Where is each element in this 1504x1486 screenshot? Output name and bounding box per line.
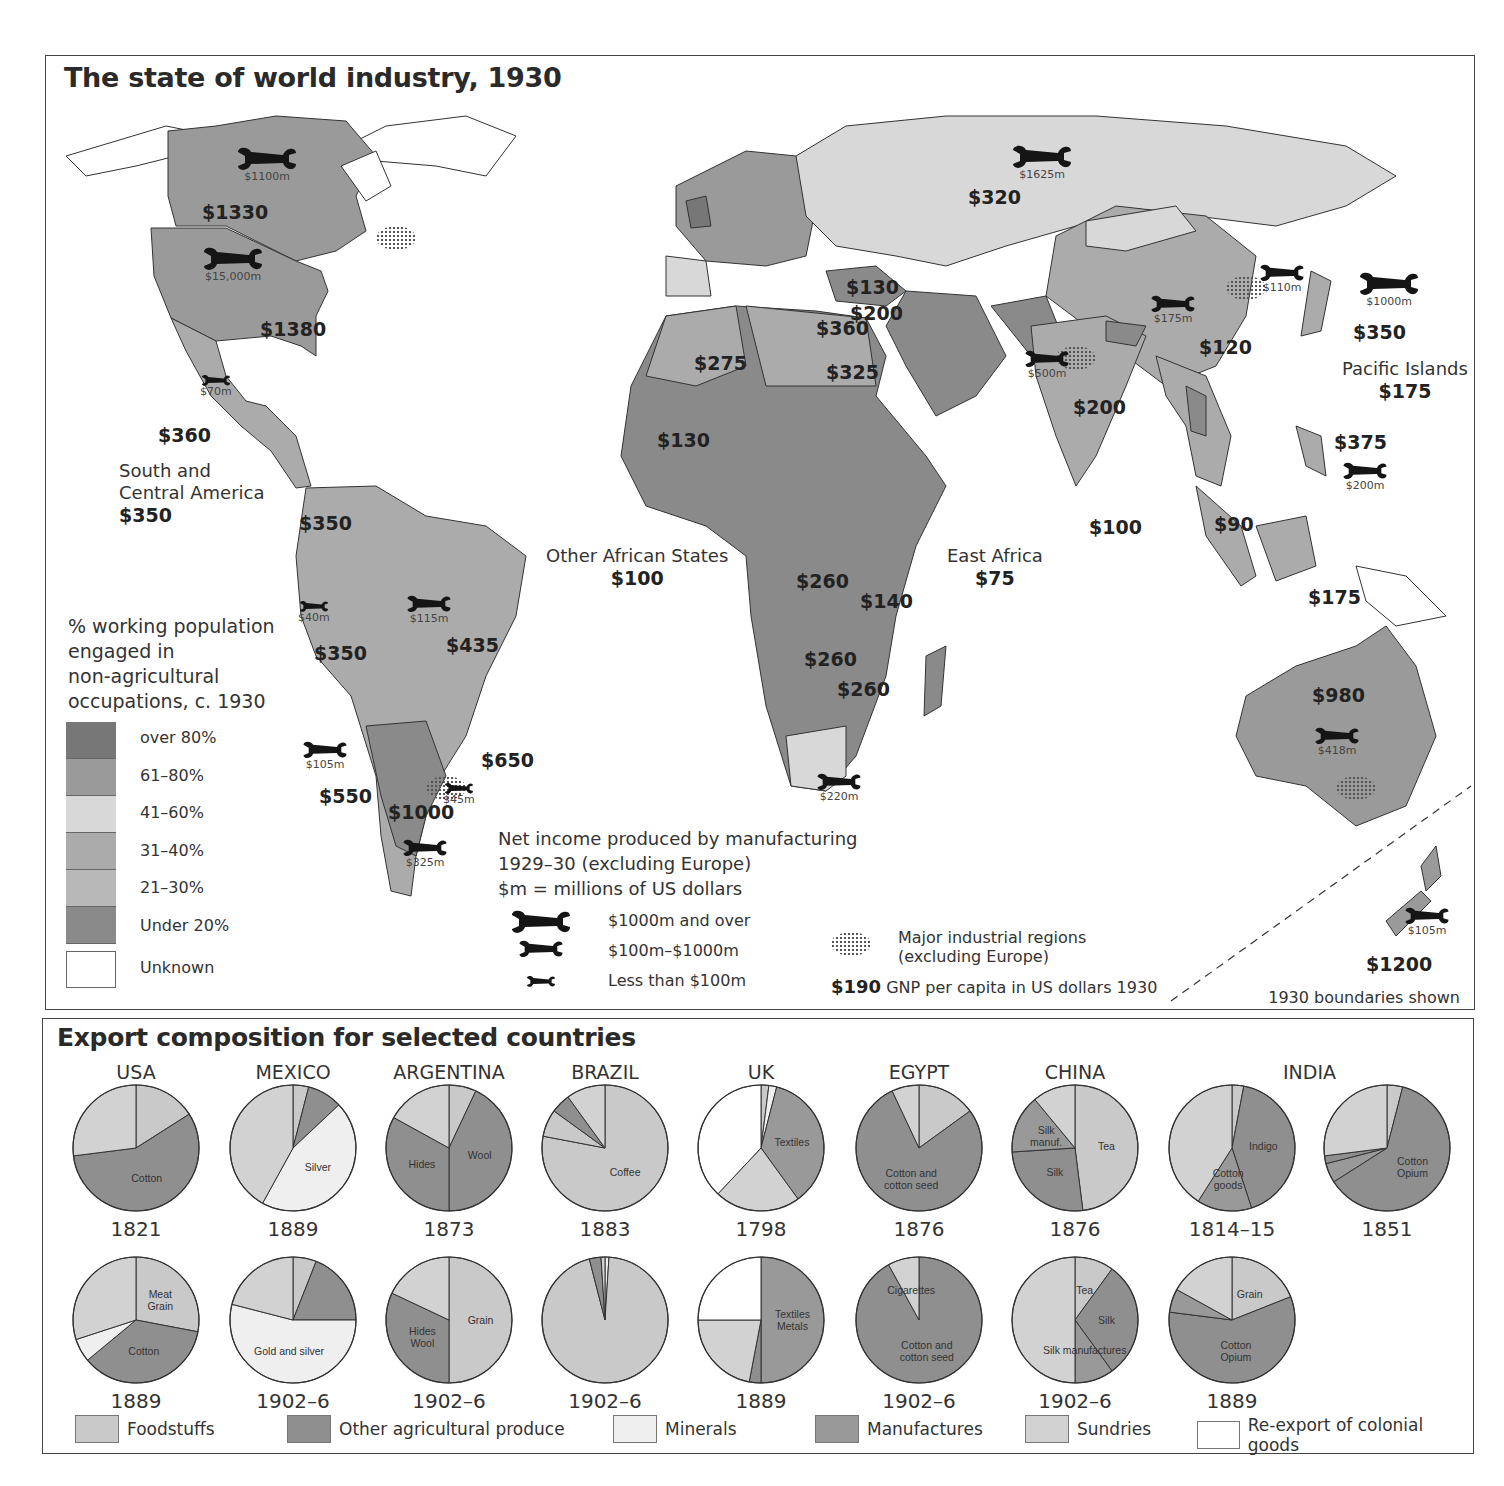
wrench-marker-philippines: $200m [1342,461,1388,492]
pie-uk-1798: Textiles [696,1083,826,1213]
pie-year-label: 1902–6 [233,1389,353,1413]
pie-year-label: 1889 [76,1389,196,1413]
svg-text:Cigarettes: Cigarettes [887,1284,935,1296]
svg-text:Tea: Tea [1098,1140,1115,1152]
unknown-swatch [66,951,116,988]
svg-text:Textiles: Textiles [774,1136,809,1148]
category-swatch [815,1415,859,1443]
svg-text:Wool: Wool [468,1149,492,1161]
wrench-icon [1150,294,1196,314]
wrench-marker-manchuria: $110m [1259,263,1305,294]
svg-text:Grain: Grain [1237,1288,1263,1300]
gnp-label-malaya: $90 [1214,513,1254,535]
wrench-marker-south_africa: $220m [816,772,862,803]
pie-usa-1889: MeatGrainCotton [71,1255,201,1385]
gnp-label-new_zealand: $1200 [1366,953,1432,975]
region-label-east_africa: East Africa$75 [947,545,1043,590]
category-swatch [75,1415,119,1443]
pie-brazil-1902–6 [540,1255,670,1385]
gnp-label-usa: $1380 [260,318,326,340]
legend-swatch-21_30 [66,870,116,907]
wrench-icon [406,594,452,614]
pie-year-label: 1821 [76,1217,196,1241]
country-header-argentina: ARGENTINA [369,1061,529,1083]
industrial-region-legend-swatch [831,932,871,956]
pie-india-1814–15: IndigoCottongoods [1167,1083,1297,1213]
new-guinea [1356,566,1446,626]
gnp-label-ceylon: $100 [1089,516,1142,538]
svg-text:Indigo: Indigo [1249,1140,1278,1152]
svg-text:Silk manufactures: Silk manufactures [1043,1344,1126,1356]
country-header-india: INDIA [1230,1061,1390,1083]
svg-text:Opium: Opium [1397,1167,1428,1179]
wrench-icon [1011,144,1073,170]
gnp-label-tanganyika: $140 [860,590,913,612]
svg-text:manuf.: manuf. [1030,1136,1062,1148]
svg-text:Textiles: Textiles [775,1308,810,1320]
pie-egypt-1876: Cotton andcotton seed [854,1083,984,1213]
wrench-icon [1314,726,1360,746]
gnp-label-colombia: $350 [299,512,352,534]
legend-label-21_30: 21–30% [140,878,204,897]
industrial-region-legend-label: Major industrial regions (excluding Euro… [898,928,1086,966]
industrial-region-stipple [376,226,416,250]
svg-text:Wool: Wool [411,1337,435,1349]
gnp-label-chile: $550 [319,785,372,807]
svg-text:Cotton and: Cotton and [886,1167,938,1179]
pie-year-label: 1889 [1172,1389,1292,1413]
wrench-icon [1342,461,1388,481]
gnp-label-algeria: $275 [694,352,747,374]
pie-year-label: 1814–15 [1172,1217,1292,1241]
region-label-south_central_america: South andCentral America$350 [119,460,265,527]
pie-egypt-1902–6: Cotton andcotton seedCigarettes [854,1255,984,1385]
choropleth-legend-title: % working population engaged in non-agri… [68,614,275,714]
legend-swatch-31_40 [66,833,116,870]
wrench-marker-china: $175m [1150,294,1196,325]
svg-text:goods: goods [1214,1179,1243,1191]
country-header-china: CHINA [995,1061,1155,1083]
pie-year-label: 1889 [233,1217,353,1241]
legend-label-unknown: Unknown [140,958,214,977]
wrench-icon-medium [506,939,576,959]
uk [686,196,711,228]
svg-text:Hides: Hides [408,1158,435,1170]
wrench-icon [1259,263,1305,283]
boundaries-note: 1930 boundaries shown [1268,988,1460,1007]
svg-text:Hides: Hides [409,1325,436,1337]
legend-label-61_80: 61–80% [140,766,204,785]
wrench-marker-brazil: $115m [406,594,452,625]
gnp-label-brazil: $435 [446,634,499,656]
wrench-icon-small [506,975,576,988]
world-industry-map-panel: The state of world industry, 1930 [45,55,1475,1010]
gnp-label-india: $200 [1073,396,1126,418]
category-swatch [613,1415,657,1443]
pie-year-label: 1902–6 [389,1389,509,1413]
pie-india-1851: CottonOpium [1322,1083,1452,1213]
country-header-brazil: BRAZIL [525,1061,685,1083]
gnp-label-japan: $350 [1353,321,1406,343]
svg-text:Coffee: Coffee [610,1166,641,1178]
svg-text:cotton seed: cotton seed [900,1351,954,1363]
gnp-label-australia: $980 [1312,684,1365,706]
legend-label-31_40: 31–40% [140,841,204,860]
pie-year-label: 1876 [859,1217,979,1241]
sumatra [1196,486,1256,586]
svg-text:Meat: Meat [149,1288,172,1300]
gnp-label-west_africa: $130 [657,429,710,451]
pie-year-label: 1902–6 [859,1389,979,1413]
svg-text:Cotton: Cotton [1220,1339,1251,1351]
borneo [1256,516,1316,581]
country-header-usa: USA [56,1061,216,1083]
manufacturing-legend-title: Net income produced by manufacturing 192… [498,826,858,901]
svg-text:Silver: Silver [305,1161,332,1173]
new-zealand-north [1421,846,1441,891]
manufacturing-legend-label: Less than $100m [608,971,746,990]
wrench-marker-argentina: $325m [402,838,448,869]
category-legend-item-sundries: Sundries [1025,1415,1151,1443]
pie-china-1902–6: TeaSilkSilk manufactures [1010,1255,1140,1385]
wrench-marker-india: $500m [1024,349,1070,380]
wrench-marker-canada: $1100m [236,146,298,183]
wrench-icon [236,146,298,172]
svg-text:Cotton and: Cotton and [901,1339,953,1351]
pie-year-label: 1876 [1015,1217,1135,1241]
